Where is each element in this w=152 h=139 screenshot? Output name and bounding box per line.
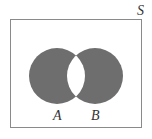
- set-b-label: B: [91, 108, 100, 123]
- venn-diagram: S A B: [0, 0, 152, 139]
- set-a-label: A: [52, 108, 62, 123]
- universe-label: S: [137, 3, 144, 18]
